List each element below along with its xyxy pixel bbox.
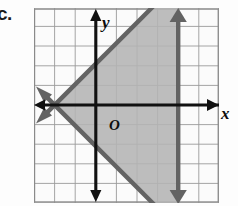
graph-figure: c.: [0, 0, 238, 206]
origin-label: O: [109, 117, 120, 133]
y-axis-label: y: [100, 13, 110, 32]
coordinate-plane: O y: [34, 8, 219, 203]
x-axis-label: x: [221, 104, 230, 124]
problem-letter-label: c.: [0, 3, 12, 25]
coordinate-plane-svg: O y: [34, 8, 219, 203]
